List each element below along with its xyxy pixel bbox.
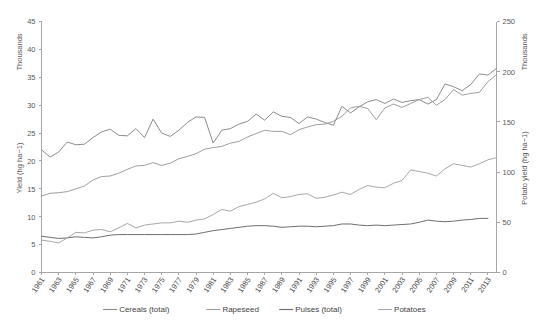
x-axis-tick-label: 1981	[201, 275, 218, 294]
x-axis-tick-label: 1971	[116, 275, 133, 294]
x-axis-tick-label: 1969	[98, 275, 115, 294]
x-axis-tick-label: 1973	[133, 275, 150, 294]
series-line-potatoes	[42, 158, 497, 243]
x-axis-tick-label: 1991	[287, 275, 304, 294]
x-axis-tick-label: 2003	[390, 275, 407, 294]
x-axis-tick-label: 1997	[339, 275, 356, 294]
y-axis-tick-label: 30	[27, 101, 35, 110]
y2-axis-tick-label: 150	[503, 118, 516, 127]
series-line-cereals-total	[42, 68, 497, 157]
y2-axis-tick-label: 200	[503, 68, 516, 77]
y-axis-tick-label: 25	[27, 129, 35, 138]
x-axis-tick-label: 2009	[442, 275, 459, 294]
series-line-pulses-total	[42, 218, 488, 238]
legend-item-label[interactable]: Potatoes	[394, 305, 426, 314]
y2-axis-tick-label: 0	[503, 268, 507, 277]
y-axis-tick-label: 5	[31, 240, 35, 249]
legend-item-label[interactable]: Cereals (total)	[119, 305, 170, 314]
x-axis-tick-label: 2005	[407, 275, 424, 294]
y-axis-tick-label: 15	[27, 185, 35, 194]
x-axis-tick-label: 1983	[219, 275, 236, 294]
line-chart: 0510152025303540450501001502002501961196…	[0, 0, 538, 327]
chart-container: 0510152025303540450501001502002501961196…	[0, 0, 538, 327]
y-axis-title: Yield (hg ha−1)	[15, 142, 24, 193]
x-axis-tick-label: 1993	[304, 275, 321, 294]
y-axis-unit-label: Thousands	[15, 33, 24, 70]
y2-axis-unit-label: Thousands	[520, 33, 529, 70]
y-axis-tick-label: 45	[27, 17, 35, 26]
y2-axis-title: Potato yield (hg ha−1)	[520, 131, 529, 205]
y-axis-tick-label: 35	[27, 73, 35, 82]
x-axis-tick-label: 2001	[373, 275, 390, 294]
x-axis-tick-label: 2013	[476, 275, 493, 294]
legend-item-label[interactable]: Rapeseed	[222, 305, 258, 314]
x-axis-tick-label: 1975	[150, 275, 167, 294]
x-axis-tick-label: 1979	[184, 275, 201, 294]
x-axis-tick-label: 2011	[459, 275, 476, 293]
y2-axis-tick-label: 50	[503, 218, 511, 227]
y-axis-tick-label: 20	[27, 157, 35, 166]
y-axis-tick-label: 40	[27, 45, 35, 54]
x-axis-tick-label: 1961	[30, 275, 47, 294]
x-axis-tick-label: 1999	[356, 275, 373, 294]
x-axis-tick-label: 2007	[425, 275, 442, 294]
x-axis-tick-label: 1967	[81, 275, 98, 294]
x-axis-tick-label: 1985	[236, 275, 253, 294]
legend-item-label[interactable]: Pulses (total)	[295, 305, 342, 314]
x-axis-tick-label: 1995	[322, 275, 339, 294]
x-axis-tick-label: 1987	[253, 275, 270, 294]
y-axis-tick-label: 10	[27, 213, 35, 222]
y2-axis-tick-label: 100	[503, 168, 516, 177]
x-axis-tick-label: 1989	[270, 275, 287, 294]
x-axis-tick-label: 1963	[47, 275, 64, 294]
y-axis-tick-label: 0	[31, 268, 35, 277]
x-axis-tick-label: 1977	[167, 275, 184, 294]
x-axis-tick-label: 1965	[64, 275, 81, 294]
series-line-rapeseed	[42, 74, 497, 196]
y2-axis-tick-label: 250	[503, 17, 516, 26]
